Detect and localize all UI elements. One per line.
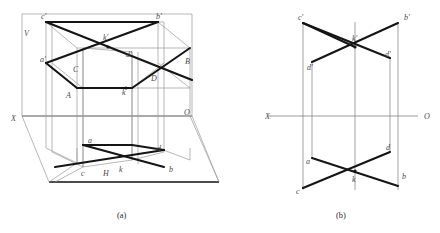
label-origin-a: O: [184, 108, 190, 117]
label-d-top-a: d: [157, 144, 162, 153]
label-point-a-a: A: [65, 91, 71, 100]
label-plane-h: H: [102, 169, 110, 178]
label-a-top-a: a: [88, 136, 92, 145]
label-x-axis-a: X: [10, 114, 17, 123]
label-a-prime-a: a': [40, 55, 46, 64]
label-k-top-a: k: [119, 165, 123, 174]
intersection-markers-a: [107, 46, 128, 158]
label-d-prime-b: d': [385, 50, 391, 59]
label-point-d-a: D: [150, 74, 157, 83]
k-prime-marker-a: [107, 46, 110, 49]
vertical-projectors-b: [303, 22, 398, 190]
label-plane-v: V: [24, 29, 30, 38]
label-c-prime-b: c': [298, 13, 304, 22]
figure-b-group: c' k' b' d' d' X O a d k c b (b): [264, 13, 430, 220]
label-o-axis-b: O: [424, 112, 430, 121]
caption-b: (b): [336, 210, 346, 220]
label-k-prime-a: k': [103, 33, 109, 42]
label-d-prime-a: d': [126, 50, 132, 59]
label-c-top-b: c: [296, 187, 300, 196]
connector-edges-b: [312, 58, 390, 158]
label-c-prime-a: c': [41, 12, 47, 21]
figure-a-group: V c' k' b' a' d' B C A D k O X a d c k b…: [10, 12, 219, 220]
label-x-axis-b: X: [264, 112, 271, 121]
label-a-top-b: a: [306, 157, 310, 166]
label-b-prime-b: b': [404, 13, 410, 22]
label-b-top-b: b: [402, 172, 406, 181]
label-k-a: k: [122, 88, 126, 97]
label-point-b-a: B: [185, 57, 190, 66]
label-b-top-a: b: [169, 165, 173, 174]
drawing-canvas: V c' k' b' a' d' B C A D k O X a d c k b…: [0, 0, 440, 233]
front-view-lines-b: [303, 23, 398, 62]
label-a-prime-b: d': [307, 63, 313, 72]
k-marker-b: [353, 169, 356, 172]
caption-a: (a): [117, 210, 127, 220]
label-point-c-a: C: [73, 65, 79, 74]
k-prime-marker-b: [353, 45, 356, 48]
technical-drawing-figure: V c' k' b' a' d' B C A D k O X a d c k b…: [0, 0, 440, 233]
top-view-lines-b: [303, 152, 398, 188]
label-c-top-a: c: [81, 169, 85, 178]
label-k-top-b: k: [352, 175, 356, 184]
label-k-prime-b: k': [352, 34, 358, 43]
label-b-prime-a: b': [156, 12, 162, 21]
k-top-marker-a: [119, 155, 122, 158]
